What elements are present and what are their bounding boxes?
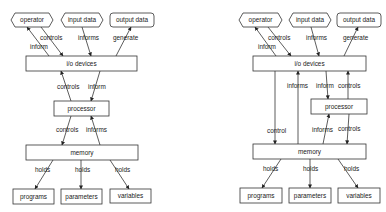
edge-label: holds [263,165,278,172]
node-label-operator: operator [20,16,45,24]
edge-label: informs [287,82,308,89]
edge-label: inform [88,83,106,90]
node-label-operator: operator [249,16,274,24]
node-label-parameters: parameters [65,193,97,201]
edge-arrow [41,27,63,56]
edge-arrow [27,27,49,56]
node-label-input-data: input data [68,16,97,24]
node-label-input-data: input data [296,16,325,24]
edge-label: inform [316,82,334,89]
edge-label: generate [343,34,369,42]
node-label-io-devices: i/o devices [66,60,96,67]
edge-label: controls [338,82,360,89]
edge-label: holds [344,165,359,172]
edge-label: controls [56,126,78,133]
left-diagram: informcontrolsinformsgeneratecontrolsinf… [11,13,154,204]
node-label-processor: processor [67,105,96,113]
edge-arrow [35,160,53,189]
edge-label: holds [75,166,90,173]
node-label-variables: variables [346,192,372,199]
node-label-processor: processor [325,103,354,111]
edge-label: holds [303,165,318,172]
edge-label: informs [312,126,333,133]
node-label-memory: memory [70,149,94,157]
edge-arrow [311,27,319,56]
node-label-memory: memory [298,148,322,156]
edge-label: controls [57,83,79,90]
edge-label: informs [78,34,99,41]
edge-arrow [268,27,291,56]
node-label-io-devices: i/o devices [294,60,324,67]
edge-arrow [338,159,358,188]
node-label-programs: programs [20,193,47,201]
node-label-output-data: output data [116,16,148,24]
edge-label: control [267,127,286,134]
edge-label: inform [258,43,276,50]
edge-arrow [116,27,131,56]
edge-label: controls [338,125,360,132]
edge-label: inform [30,43,48,50]
edge-label: generate [113,34,139,42]
edge-arrow [344,27,358,56]
edge-arrow [110,160,129,189]
edge-arrow [262,159,281,188]
node-label-parameters: parameters [294,192,326,200]
edge-label: informs [86,126,107,133]
edge-label: informs [306,34,327,41]
edge-label: holds [115,166,130,173]
right-diagram: informcontrolsinformsgeneratecontrolinfo… [239,13,381,203]
node-label-output-data: output data [343,16,375,24]
diagram-canvas: informcontrolsinformsgeneratecontrolsinf… [0,0,386,212]
edge-arrow [255,27,276,56]
edge-label: controls [40,34,62,41]
edge-label: controls [268,34,290,41]
edge-arrow [82,27,91,56]
edge-label: holds [35,166,50,173]
node-label-variables: variables [118,192,144,199]
node-label-programs: programs [248,192,275,200]
